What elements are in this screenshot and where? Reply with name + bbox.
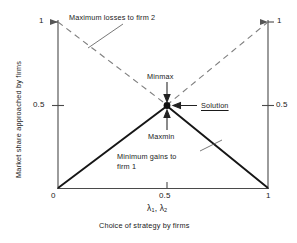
figure-canvas: Market share approached by firms 1 0.5 1… — [0, 0, 297, 243]
annotation-minimum-gains: Minimum gains to firm 1 — [117, 152, 177, 172]
x-tick-label-05: 0.5 — [159, 191, 171, 201]
y-tick-label-right-1: 1 — [277, 16, 282, 26]
annotation-minimum-gains-line1: Minimum gains to — [117, 152, 177, 161]
annotation-solution: Solution — [201, 101, 229, 110]
annotation-maximum-losses: Maximum losses to firm 2 — [69, 13, 155, 22]
annotation-maxmin: Maxmin — [148, 132, 174, 141]
arrow-minmax — [164, 82, 170, 102]
arrow-maxmin — [164, 110, 170, 130]
lambda-1-subscript: 1 — [151, 207, 154, 213]
arrow-solution — [173, 103, 197, 109]
x-axis-title: Choice of strategy by firms — [99, 221, 189, 230]
y-axis-title: Market share approached by firms — [14, 61, 23, 178]
x-axis-variable: λ1, λ2 — [147, 203, 167, 214]
x-tick-label-1: 1 — [266, 191, 271, 201]
arrowhead-top-left — [50, 19, 58, 25]
arrowhead-top-right — [260, 19, 268, 25]
series-minimum-gains — [58, 106, 268, 188]
leader-maximum-losses — [88, 24, 123, 48]
series-maximum-losses — [58, 22, 268, 105]
lambda-2-subscript: 2 — [164, 207, 167, 213]
y-tick-label-right-05: 0.5 — [276, 100, 288, 110]
y-tick-label-left-1: 1 — [39, 16, 44, 26]
y-tick-label-left-05: 0.5 — [33, 100, 45, 110]
annotation-minimum-gains-line2: firm 1 — [117, 162, 136, 171]
x-tick-label-0: 0 — [51, 191, 56, 201]
annotation-minmax: Minmax — [147, 72, 173, 81]
